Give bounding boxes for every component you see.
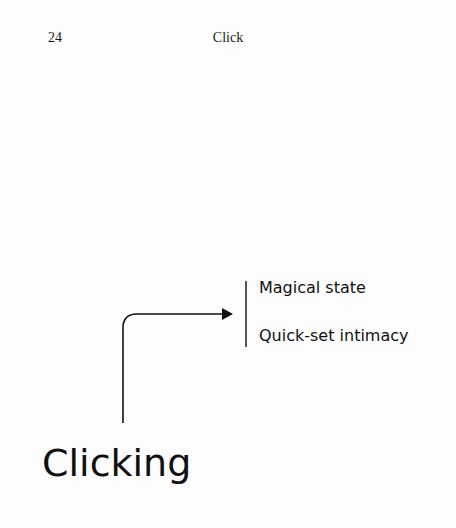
- connector-line: [123, 314, 224, 423]
- target-label-magical-state: Magical state: [259, 278, 366, 297]
- arrowhead-icon: [222, 308, 233, 320]
- source-label-clicking: Clicking: [42, 441, 191, 485]
- target-label-quick-set-intimacy: Quick-set intimacy: [259, 326, 409, 345]
